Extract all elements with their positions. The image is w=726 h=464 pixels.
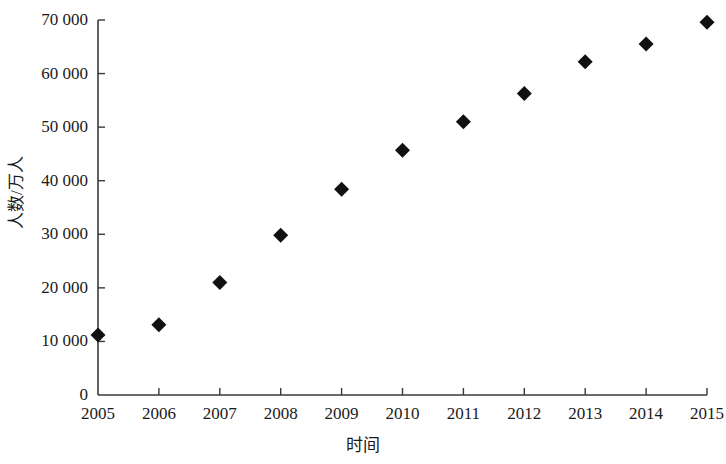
scatter-chart: 人数/万人 010 00020 00030 00040 00050 00060 … — [0, 0, 726, 464]
data-point — [456, 114, 471, 129]
x-axis-title: 时间 — [0, 437, 726, 454]
data-point — [395, 143, 410, 158]
data-point — [700, 15, 715, 30]
data-point — [578, 54, 593, 69]
data-point — [91, 328, 106, 343]
data-point — [334, 182, 349, 197]
data-markers — [91, 15, 715, 343]
data-point — [273, 228, 288, 243]
axes — [98, 20, 707, 395]
data-point — [212, 275, 227, 290]
data-point — [517, 86, 532, 101]
data-point — [151, 317, 166, 332]
plot-area — [0, 0, 726, 464]
data-point — [639, 37, 654, 52]
